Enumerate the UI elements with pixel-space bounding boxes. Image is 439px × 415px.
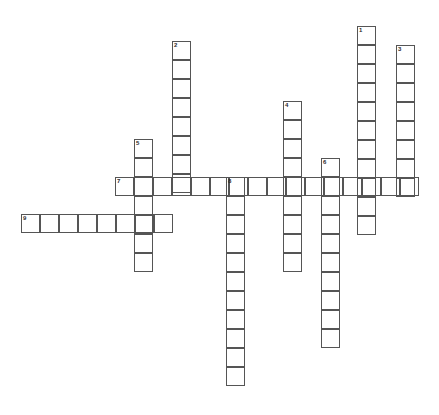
crossword-cell[interactable]	[283, 234, 302, 253]
crossword-cell[interactable]	[321, 253, 340, 272]
clue-number-2: 2	[174, 42, 177, 49]
clue-number-4: 4	[285, 102, 288, 109]
crossword-cell[interactable]: 4	[283, 101, 302, 120]
clue-number-3: 3	[398, 46, 401, 53]
crossword-cell[interactable]	[286, 177, 305, 196]
crossword-cell[interactable]	[283, 196, 302, 215]
crossword-cell[interactable]	[357, 197, 376, 216]
crossword-cell[interactable]	[381, 177, 400, 196]
crossword-cell[interactable]	[343, 177, 362, 196]
crossword-cell[interactable]	[172, 155, 191, 174]
crossword-cell[interactable]	[400, 177, 419, 196]
crossword-cell-layer: 123456789	[0, 0, 439, 415]
crossword-cell[interactable]	[226, 215, 245, 234]
crossword-cell[interactable]	[357, 45, 376, 64]
crossword-cell[interactable]: 5	[134, 139, 153, 158]
crossword-cell[interactable]	[357, 159, 376, 178]
crossword-cell[interactable]	[172, 98, 191, 117]
crossword-grid[interactable]: 123456789	[0, 0, 439, 415]
crossword-cell[interactable]	[357, 216, 376, 235]
crossword-cell[interactable]: 9	[21, 214, 40, 233]
crossword-cell[interactable]	[59, 214, 78, 233]
crossword-cell[interactable]	[396, 64, 415, 83]
crossword-cell[interactable]	[226, 329, 245, 348]
crossword-cell[interactable]	[191, 177, 210, 196]
crossword-cell[interactable]	[134, 196, 153, 215]
clue-number-7: 7	[117, 178, 120, 185]
crossword-cell[interactable]	[134, 253, 153, 272]
crossword-cell[interactable]: 3	[396, 45, 415, 64]
crossword-cell[interactable]	[172, 60, 191, 79]
crossword-cell[interactable]	[396, 121, 415, 140]
crossword-cell[interactable]	[154, 214, 173, 233]
crossword-cell[interactable]: 2	[172, 41, 191, 60]
crossword-cell[interactable]	[321, 234, 340, 253]
clue-number-5: 5	[136, 140, 139, 147]
crossword-cell[interactable]	[226, 253, 245, 272]
crossword-cell[interactable]	[321, 215, 340, 234]
crossword-cell[interactable]	[283, 120, 302, 139]
crossword-cell[interactable]: 7	[115, 177, 134, 196]
crossword-cell[interactable]	[396, 140, 415, 159]
crossword-cell[interactable]	[172, 117, 191, 136]
crossword-cell[interactable]	[226, 310, 245, 329]
crossword-cell[interactable]	[321, 272, 340, 291]
crossword-cell[interactable]	[135, 214, 154, 233]
clue-number-6: 6	[323, 159, 326, 166]
crossword-cell[interactable]	[226, 234, 245, 253]
crossword-cell[interactable]	[97, 214, 116, 233]
crossword-cell[interactable]	[357, 102, 376, 121]
crossword-cell[interactable]	[267, 177, 286, 196]
crossword-cell[interactable]	[283, 139, 302, 158]
crossword-cell[interactable]	[134, 177, 153, 196]
crossword-cell[interactable]	[283, 215, 302, 234]
crossword-cell[interactable]	[321, 291, 340, 310]
crossword-cell[interactable]	[226, 367, 245, 386]
crossword-cell[interactable]	[226, 348, 245, 367]
crossword-cell[interactable]	[134, 234, 153, 253]
crossword-cell[interactable]	[357, 64, 376, 83]
crossword-cell[interactable]	[396, 102, 415, 121]
crossword-cell[interactable]	[362, 177, 381, 196]
crossword-cell[interactable]: 1	[357, 26, 376, 45]
clue-number-1: 1	[359, 27, 362, 34]
crossword-cell[interactable]	[283, 253, 302, 272]
crossword-cell[interactable]	[305, 177, 324, 196]
crossword-cell[interactable]	[134, 158, 153, 177]
crossword-cell[interactable]	[116, 214, 135, 233]
crossword-cell[interactable]	[78, 214, 97, 233]
crossword-cell[interactable]	[357, 140, 376, 159]
crossword-cell[interactable]	[226, 196, 245, 215]
crossword-cell[interactable]	[283, 158, 302, 177]
crossword-cell[interactable]	[357, 121, 376, 140]
crossword-cell[interactable]	[321, 329, 340, 348]
crossword-cell[interactable]	[248, 177, 267, 196]
crossword-cell[interactable]: 8	[226, 177, 245, 196]
crossword-cell[interactable]	[226, 272, 245, 291]
crossword-cell[interactable]: 6	[321, 158, 340, 177]
crossword-cell[interactable]	[321, 196, 340, 215]
crossword-cell[interactable]	[357, 83, 376, 102]
crossword-cell[interactable]	[226, 291, 245, 310]
clue-number-8: 8	[228, 178, 231, 185]
crossword-cell[interactable]	[153, 177, 172, 196]
crossword-cell[interactable]	[172, 136, 191, 155]
clue-number-9: 9	[23, 215, 26, 222]
crossword-cell[interactable]	[172, 79, 191, 98]
crossword-cell[interactable]	[396, 83, 415, 102]
crossword-cell[interactable]	[324, 177, 343, 196]
crossword-cell[interactable]	[172, 177, 191, 196]
crossword-cell[interactable]	[40, 214, 59, 233]
crossword-cell[interactable]	[321, 310, 340, 329]
crossword-cell[interactable]	[396, 159, 415, 178]
